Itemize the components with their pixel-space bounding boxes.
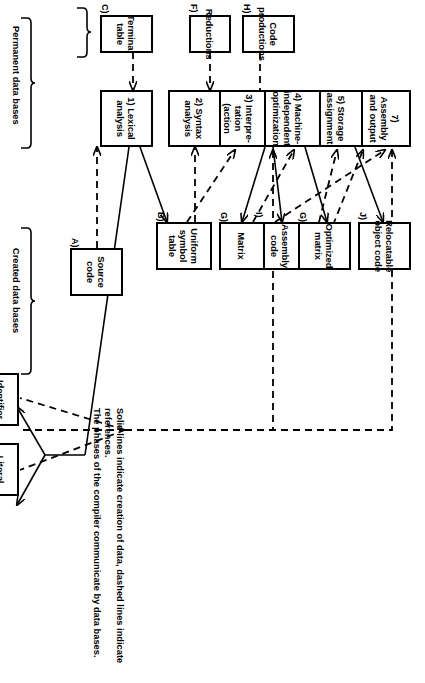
phase-5-number: 5) [337,96,348,104]
db-A-line1: Source [97,256,108,288]
phase-1-line1: Lexical [127,108,138,140]
wire-tables-to-assemblyoutput [125,150,392,430]
phase-3-line1: Interpre- [244,105,255,143]
wire-codeselection-to-assemblycode [273,147,282,222]
db-G2-line1: Optimized [325,223,336,268]
db-box-relocatable-object-code[interactable]: Relocatable object code [358,222,411,270]
brace-created [21,228,35,374]
wire-optmatrix-to-storage [319,150,337,222]
db-G-line1: Matrix [237,232,248,259]
db-H-line2: productions [258,7,269,61]
phase-2-number: 2) [195,98,206,106]
figure-caption: Solid lines indicate creation of data, d… [91,408,126,680]
phase-box-7[interactable]: 7) Assembly and output [358,90,411,147]
phase-2-line1: Syntax [195,109,206,140]
group-label-created: Created data bases [11,248,21,333]
figure-rotation-wrapper: 7) Assembly and output 6) Code selection… [0,0,425,683]
phase-7-line2: and output [368,94,379,142]
db-tag-G-optimized: G) [298,212,307,222]
db-F-line1: Reductions [205,9,216,60]
db-tag-B: B) [156,212,165,222]
phase-7-number: 7) [390,114,401,122]
wire-optimization-to-optmatrix [305,147,327,222]
db-tag-F: F) [189,4,198,13]
db-tag-H: H) [242,4,251,14]
db-E-line1: Literal [0,456,6,484]
phase-1-line2: analysis [116,100,127,137]
brace-permanent-2 [21,18,35,148]
db-box-identifier-table[interactable]: Identifier table [0,373,19,426]
db-J-line1: Relocatable [385,220,396,272]
phase-2-line2: analysis [184,100,195,137]
db-tag-I: I) [254,212,263,218]
db-I-line1: Assembly [281,224,292,268]
wire-interpretation-to-matrix [242,147,265,222]
phase-4-line1: Machine- [294,104,305,144]
db-tag-J: J) [358,212,367,220]
db-D-line1: Identifier [0,380,6,419]
db-box-terminal-table[interactable]: Terminal table [100,15,153,53]
phase-3-number: 3) [244,94,255,102]
db-box-matrix[interactable]: Matrix [219,222,265,270]
db-box-optimized-matrix[interactable]: Optimized matrix [298,222,351,270]
db-box-uniform-symbol-table[interactable]: Uniform symbol table [156,222,212,270]
phase-4-line3: optimization [272,91,283,146]
diagram-canvas: 7) Assembly and output 6) Code selection… [0,0,425,683]
wire-assemblyoutput-to-relocatable [355,147,383,222]
db-A-line2: code [86,261,97,283]
wire-lexical-to-usymtable [140,147,167,222]
phase-3-line2: tation (action [222,103,244,133]
wire-assemblycode-to-assemblyoutput [275,150,385,222]
group-label-permanent: Permanent data bases [11,26,21,125]
db-box-code-productions[interactable]: Code productions [242,15,295,53]
phase-7-line1: Assembly [379,96,390,140]
brace-permanent [77,8,91,57]
db-H-line1: Code [269,22,280,45]
db-box-reductions[interactable]: Reductions [189,15,231,53]
db-C-line2: table [116,23,127,45]
db-J-line2: object code [374,220,385,272]
caption-line-1: Solid lines indicate creation of data, d… [104,408,126,663]
db-C-line1: Terminal [127,15,138,53]
db-I-line2: code [270,235,281,257]
db-box-literal-table[interactable]: Literal table [0,443,19,496]
db-box-source-code[interactable]: Source code [70,248,123,296]
phase-4-line2: independent [283,91,294,146]
phase-5-line2: assignment [326,93,337,145]
db-B-line1: Uniform [190,228,201,264]
phase-1-number: 1) [127,97,138,105]
db-tag-C: C) [100,4,109,14]
phase-box-1[interactable]: 1) Lexical analysis [100,90,153,147]
phase-5-line1: Storage [337,107,348,142]
db-G2-line2: matrix [314,232,325,260]
db-tag-G-matrix: G) [219,212,228,222]
db-B-line2: symbol [179,230,190,263]
db-B-line3: table [168,235,179,257]
db-tag-A: A) [70,238,79,248]
phase-box-2[interactable]: 2) Syntax analysis [168,90,221,147]
caption-line-2: The phases of the compiler communicate b… [92,408,102,658]
phase-4-number: 4) [294,93,305,101]
